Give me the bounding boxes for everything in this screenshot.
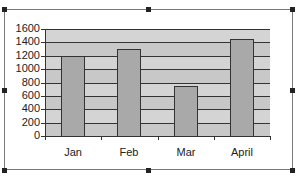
x-tick <box>45 136 46 140</box>
resize-handle-bottom-center[interactable] <box>146 168 151 173</box>
y-tick-label: 400 <box>0 103 40 114</box>
y-tick-label: 1600 <box>0 23 40 34</box>
resize-handle-bottom-right[interactable] <box>290 168 295 173</box>
y-tick <box>41 56 47 57</box>
plot-area[interactable] <box>45 29 270 136</box>
bar-mar[interactable] <box>174 86 198 137</box>
x-tick <box>214 136 215 140</box>
y-tick-label: 1200 <box>0 50 40 61</box>
y-tick <box>41 96 47 97</box>
resize-handle-bottom-left[interactable] <box>2 168 7 173</box>
bar-april[interactable] <box>230 39 254 137</box>
y-tick <box>41 136 47 137</box>
y-tick <box>41 123 47 124</box>
y-tick-label: 200 <box>0 117 40 128</box>
y-tick <box>41 109 47 110</box>
x-tick-label: April <box>214 146 270 158</box>
y-tick <box>41 69 47 70</box>
y-tick-label: 0 <box>0 130 40 141</box>
gridline <box>45 29 270 30</box>
resize-handle-top-left[interactable] <box>2 7 7 12</box>
x-tick <box>270 136 271 140</box>
y-tick-label: 800 <box>0 77 40 88</box>
y-tick <box>41 42 47 43</box>
y-tick <box>41 83 47 84</box>
x-tick-label: Mar <box>158 146 214 158</box>
y-tick <box>41 29 47 30</box>
x-tick <box>158 136 159 140</box>
resize-handle-middle-right[interactable] <box>290 88 295 93</box>
x-tick-label: Feb <box>101 146 157 158</box>
bar-feb[interactable] <box>117 49 141 137</box>
x-tick-label: Jan <box>45 146 101 158</box>
bar-jan[interactable] <box>61 56 85 137</box>
y-tick-label: 600 <box>0 90 40 101</box>
resize-handle-top-center[interactable] <box>146 7 151 12</box>
x-tick <box>101 136 102 140</box>
y-tick-label: 1400 <box>0 36 40 47</box>
y-tick-label: 1000 <box>0 63 40 74</box>
resize-handle-top-right[interactable] <box>290 7 295 12</box>
